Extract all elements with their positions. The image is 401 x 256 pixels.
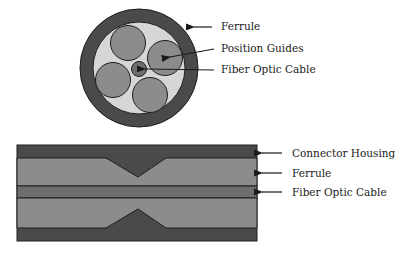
label-ferrule-2: Ferrule <box>292 167 331 179</box>
label-position-guides: Position Guides <box>221 42 304 54</box>
label-ferrule: Ferrule <box>221 20 260 32</box>
label-fiber-optic-cable-2: Fiber Optic Cable <box>292 186 387 198</box>
position-guide-right <box>148 41 183 76</box>
position-guide-bottom <box>133 78 168 113</box>
fiber-connector-diagram <box>0 0 401 256</box>
fiber-core <box>132 62 147 77</box>
label-fiber-optic-cable: Fiber Optic Cable <box>221 63 316 75</box>
fiber-core-band <box>17 186 257 198</box>
position-guide-left <box>96 63 131 98</box>
cross-section-view <box>80 9 214 127</box>
longitudinal-view <box>17 145 282 241</box>
label-connector-housing: Connector Housing <box>292 147 395 159</box>
position-guide-top <box>111 26 146 61</box>
